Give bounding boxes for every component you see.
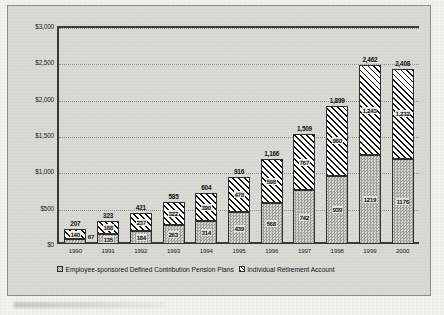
x-axis-tick-label: 1999 — [353, 247, 387, 254]
y-axis-tick-label: $2,000 — [10, 95, 54, 102]
bar-segment-ira[interactable]: 188 — [97, 221, 119, 235]
bar-total-label: 2,462 — [362, 56, 377, 63]
x-axis-tick-label: 1994 — [189, 247, 223, 254]
segment-value-label: 1176 — [396, 198, 410, 205]
legend-item-dc: Employee-sponsored Defined Contribution … — [57, 266, 234, 273]
bar-segment-dc[interactable]: 568 — [261, 203, 283, 244]
bar-segment-dc[interactable]: 135 — [97, 234, 119, 244]
y-axis-tick-label: $2,500 — [10, 59, 54, 66]
bar-segment-dc[interactable]: 439 — [228, 212, 250, 244]
x-axis-tick-label: 2000 — [386, 247, 420, 254]
bar-column[interactable]: 585322263 — [163, 202, 185, 245]
x-axis-tick-label: 1992 — [124, 247, 158, 254]
bar-total-label: 1,166 — [264, 150, 279, 157]
y-axis-tick-label: $1,000 — [10, 168, 54, 175]
segment-value-label: 939 — [332, 206, 343, 213]
bar-segment-ira[interactable]: 598 — [261, 159, 283, 202]
bar-segment-dc[interactable]: 184 — [130, 231, 152, 244]
bar-segment-ira[interactable]: 237 — [130, 213, 152, 230]
bar-total-label: 323 — [103, 212, 113, 219]
bar-total-label: 1,509 — [297, 125, 312, 132]
y-axis-tick-label: $1,500 — [10, 132, 54, 139]
legend-label-ira: Individual Retirement Account — [247, 266, 334, 273]
bar-segment-dc[interactable]: 314 — [195, 221, 217, 244]
segment-value-label: 1,243 — [362, 107, 377, 114]
chart-figure: $0$500$1,000$1,500$2,000$2,500$3,000 207… — [7, 5, 431, 296]
bar-segment-ira[interactable]: 140 — [64, 229, 86, 239]
bar-column[interactable]: 421237184 — [130, 213, 152, 244]
bar-segment-dc[interactable]: 263 — [163, 225, 185, 244]
bar-segment-dc[interactable] — [64, 239, 86, 244]
segment-value-label: 390 — [201, 204, 212, 211]
bar-total-label: 604 — [201, 184, 211, 191]
y-axis-tick-label: $3,000 — [10, 23, 54, 30]
segment-value-label: 568 — [266, 220, 277, 227]
bar-segment-dc[interactable]: 742 — [293, 190, 315, 244]
x-axis-tick-label: 1995 — [222, 247, 256, 254]
legend-item-ira: Individual Retirement Account — [239, 266, 335, 273]
x-axis-tick-label: 1991 — [91, 247, 125, 254]
scanned-page-background: $0$500$1,000$1,500$2,000$2,500$3,000 207… — [0, 0, 444, 315]
bar-segment-dc[interactable]: 1219 — [359, 155, 381, 244]
chart-legend: Employee-sponsored Defined Contribution … — [57, 262, 397, 276]
x-axis-tick-label: 1990 — [58, 247, 92, 254]
bar-column[interactable]: 916478439 — [228, 177, 250, 244]
segment-value-label: 767 — [299, 159, 310, 166]
bar-column[interactable]: 1,166598568 — [261, 159, 283, 244]
x-axis: 1990199119921993199419951996199719981999… — [59, 247, 419, 259]
bar-series-group: 2071406732318813542123718458532226360439… — [59, 26, 419, 244]
segment-value-label: 1219 — [363, 196, 377, 203]
x-axis-tick-label: 1998 — [320, 247, 354, 254]
x-axis-tick-label: 1996 — [255, 247, 289, 254]
segment-value-label: 1,232 — [395, 110, 410, 117]
x-axis-tick-label: 1997 — [287, 247, 321, 254]
bar-total-label: 2,408 — [395, 60, 410, 67]
bar-column[interactable]: 2,4081,2321176 — [392, 69, 414, 244]
bar-segment-ira[interactable]: 478 — [228, 177, 250, 212]
segment-value-label: 314 — [201, 229, 212, 236]
segment-value-label: 598 — [266, 178, 277, 185]
bar-segment-ira[interactable]: 767 — [293, 134, 315, 190]
bar-column[interactable]: 1,899960939 — [326, 106, 348, 244]
bar-total-label: 207 — [70, 220, 80, 227]
bar-column[interactable]: 2,4621,2431219 — [359, 65, 381, 244]
segment-value-label: 478 — [234, 191, 245, 198]
bar-segment-ira[interactable]: 1,232 — [392, 69, 414, 159]
legend-label-dc: Employee-sponsored Defined Contribution … — [66, 266, 234, 273]
x-axis-tick-label: 1993 — [157, 247, 191, 254]
bar-segment-ira[interactable]: 960 — [326, 106, 348, 176]
bar-segment-ira[interactable]: 390 — [195, 193, 217, 221]
bar-segment-ira[interactable]: 322 — [163, 202, 185, 225]
bar-column[interactable]: 323188135 — [97, 221, 119, 244]
y-axis: $0$500$1,000$1,500$2,000$2,500$3,000 — [8, 26, 54, 244]
page-smudge — [14, 302, 164, 308]
legend-swatch-dc-icon — [57, 266, 63, 272]
segment-value-label: 237 — [135, 219, 146, 226]
segment-value-label: 135 — [103, 236, 114, 243]
bar-column[interactable]: 1,509767742 — [293, 134, 315, 244]
segment-value-label: 263 — [168, 231, 179, 238]
segment-value-label: 140 — [70, 231, 81, 238]
y-axis-tick-label: $0 — [10, 241, 54, 248]
bar-total-label: 421 — [136, 204, 146, 211]
legend-swatch-ira-icon — [239, 266, 245, 272]
bar-segment-dc[interactable]: 1176 — [392, 159, 414, 244]
segment-value-label: 960 — [332, 137, 343, 144]
bar-segment-ira[interactable]: 1,243 — [359, 65, 381, 155]
bar-column[interactable]: 207140 — [64, 229, 86, 244]
bar-total-label: 916 — [234, 168, 244, 175]
segment-value-label: 188 — [103, 224, 114, 231]
segment-value-label-outside: 67 — [88, 233, 94, 240]
bar-column[interactable]: 604390314 — [195, 193, 217, 244]
bar-segment-dc[interactable]: 939 — [326, 176, 348, 244]
segment-value-label: 322 — [168, 210, 179, 217]
bar-total-label: 585 — [168, 193, 178, 200]
segment-value-label: 742 — [299, 214, 310, 221]
bar-total-label: 1,899 — [330, 97, 345, 104]
y-axis-tick-label: $500 — [10, 204, 54, 211]
segment-value-label: 439 — [234, 225, 245, 232]
segment-value-label: 184 — [135, 234, 146, 241]
